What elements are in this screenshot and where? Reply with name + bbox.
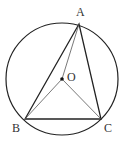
label-a: A bbox=[76, 5, 85, 19]
center-point-o bbox=[60, 77, 64, 81]
geometry-diagram: A B C O bbox=[0, 0, 124, 142]
label-o: O bbox=[67, 70, 76, 84]
segment-oc bbox=[62, 79, 101, 119]
label-b: B bbox=[12, 121, 20, 135]
label-c: C bbox=[104, 121, 112, 135]
segment-ob bbox=[25, 79, 62, 119]
triangle-abc bbox=[25, 24, 101, 119]
